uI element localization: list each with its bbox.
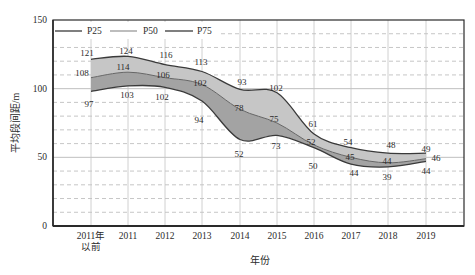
x-tick-label: 2018 bbox=[379, 231, 398, 241]
data-label-p25: 50 bbox=[309, 161, 319, 171]
y-tick-label: 100 bbox=[33, 84, 48, 94]
data-label-p50: 52 bbox=[307, 137, 316, 147]
data-label-p25: 39 bbox=[383, 172, 393, 182]
data-label-p75: 49 bbox=[422, 144, 432, 154]
data-label-p25: 44 bbox=[350, 168, 360, 178]
x-tick-label: 2015 bbox=[268, 231, 287, 241]
y-axis-title: 平均段间距/m bbox=[9, 93, 21, 154]
data-label-p25: 94 bbox=[195, 115, 205, 125]
x-tick-label: 2017 bbox=[342, 231, 361, 241]
data-label-p50: 102 bbox=[193, 78, 207, 88]
data-label-p50: 46 bbox=[432, 153, 442, 163]
y-tick-label: 0 bbox=[42, 221, 47, 231]
y-tick-label: 150 bbox=[33, 15, 48, 25]
data-label-p75: 124 bbox=[119, 46, 133, 56]
x-tick-label: 2013 bbox=[193, 231, 212, 241]
data-label-p75: 102 bbox=[269, 83, 283, 93]
data-label-p75: 61 bbox=[309, 119, 318, 129]
x-tick-label: 2012 bbox=[156, 231, 175, 241]
x-tick-label: 2019 bbox=[417, 231, 436, 241]
data-label-p25: 73 bbox=[272, 141, 282, 151]
y-tick-label: 50 bbox=[38, 152, 48, 162]
data-label-p75: 54 bbox=[344, 137, 354, 147]
data-label-p75: 93 bbox=[238, 77, 248, 87]
legend-label-p50: P50 bbox=[143, 26, 158, 36]
data-label-p25: 44 bbox=[422, 166, 432, 176]
data-label-p50: 106 bbox=[156, 70, 170, 80]
data-label-p75: 48 bbox=[387, 140, 397, 150]
chart: P25 P50 P75 050100150 2011年以前20112012201… bbox=[0, 0, 475, 275]
x-tick-label: 以前 bbox=[81, 241, 101, 252]
y-axis-ticks: 050100150 bbox=[33, 15, 48, 231]
x-axis-ticks: 2011年以前201120122013201420152016201720182… bbox=[77, 230, 436, 252]
x-axis-title: 年份 bbox=[250, 254, 270, 266]
data-label-p50: 75 bbox=[270, 114, 280, 124]
data-label-p50: 45 bbox=[346, 152, 356, 162]
legend-label-p75: P75 bbox=[197, 26, 212, 36]
legend-label-p25: P25 bbox=[87, 26, 102, 36]
band-p50-p75 bbox=[91, 56, 426, 163]
data-label-p75: 116 bbox=[159, 50, 173, 60]
x-tick-label: 2011 bbox=[119, 231, 138, 241]
data-label-p50: 108 bbox=[75, 68, 89, 78]
data-label-p25: 52 bbox=[235, 149, 244, 159]
x-tick-label: 2014 bbox=[231, 231, 250, 241]
data-label-p25: 102 bbox=[155, 92, 169, 102]
legend: P25 P50 P75 bbox=[54, 22, 218, 39]
data-label-p50: 78 bbox=[235, 103, 245, 113]
data-label-p50: 114 bbox=[116, 62, 130, 72]
x-tick-label: 2011年 bbox=[77, 230, 106, 241]
data-label-p75: 113 bbox=[194, 57, 208, 67]
x-tick-label: 2016 bbox=[305, 231, 324, 241]
data-label-p25: 97 bbox=[85, 99, 95, 109]
data-label-p75: 121 bbox=[80, 48, 94, 58]
data-label-p25: 103 bbox=[120, 90, 134, 100]
data-label-p50: 44 bbox=[383, 156, 393, 166]
